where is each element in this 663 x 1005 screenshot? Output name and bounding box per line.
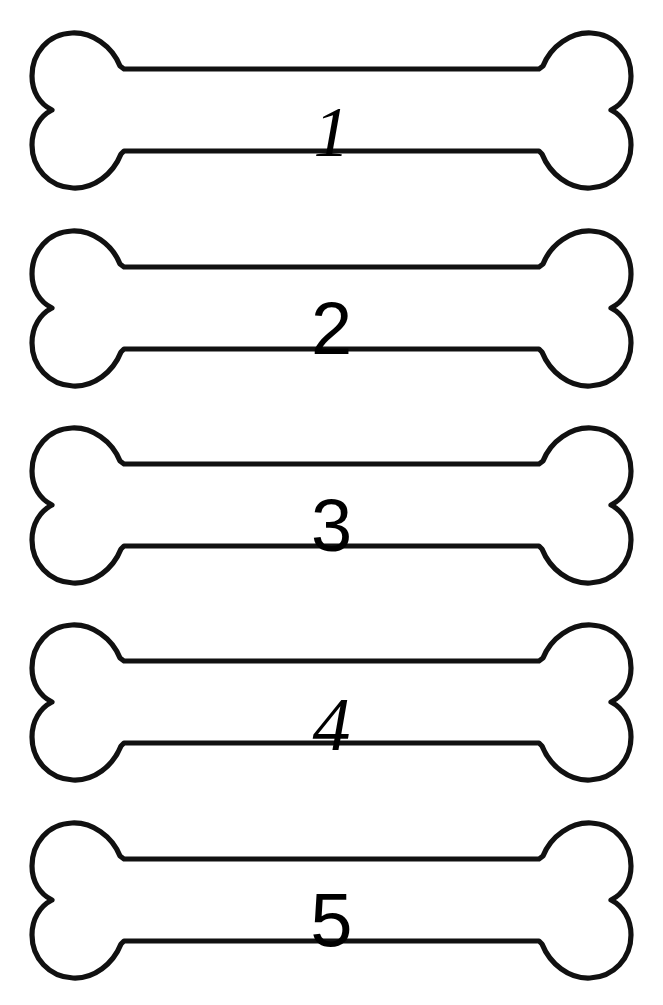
bone-number-label: 5 [0, 882, 663, 958]
bone-number-label: 2 [0, 292, 663, 366]
bone-number-label: 4 [0, 686, 663, 762]
bone-item[interactable]: 3 [0, 415, 663, 600]
bone-item[interactable]: 5 [0, 810, 663, 995]
bone-number-label: 3 [0, 489, 663, 563]
worksheet-page: 1 2 3 4 5 [0, 0, 663, 1005]
bone-item[interactable]: 1 [0, 20, 663, 205]
bone-item[interactable]: 2 [0, 218, 663, 403]
bone-number-label: 1 [0, 96, 663, 168]
bone-item[interactable]: 4 [0, 612, 663, 797]
